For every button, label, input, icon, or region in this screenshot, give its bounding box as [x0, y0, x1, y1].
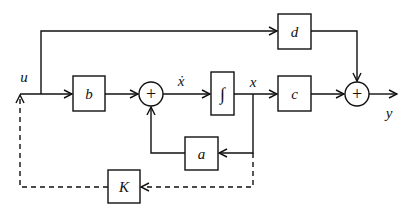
- signal-u-label: u: [20, 69, 28, 85]
- summing-junction-1: +: [139, 82, 163, 106]
- block-c-label: c: [291, 86, 298, 102]
- wire-a-to-sum1: [151, 107, 185, 153]
- signal-y-label: y: [384, 105, 393, 121]
- block-d: d: [278, 14, 311, 49]
- block-integrator: ∫: [211, 72, 234, 115]
- block-a: a: [185, 137, 218, 170]
- block-b-label: b: [85, 86, 93, 102]
- block-K: K: [108, 170, 140, 203]
- wire-d-to-sum2: [311, 31, 357, 81]
- block-diagram: b ∫ c d a K + + u ẋ x y: [0, 0, 408, 216]
- block-b: b: [73, 76, 105, 111]
- block-K-label: K: [118, 179, 130, 195]
- plus-icon: +: [146, 84, 156, 104]
- block-a-label: a: [198, 146, 206, 162]
- plus-icon: +: [352, 84, 362, 104]
- signal-x-label: x: [249, 74, 257, 90]
- block-d-label: d: [291, 24, 299, 40]
- block-c: c: [278, 76, 311, 111]
- signal-xdot-label: ẋ: [177, 73, 185, 89]
- summing-junction-2: +: [345, 82, 369, 106]
